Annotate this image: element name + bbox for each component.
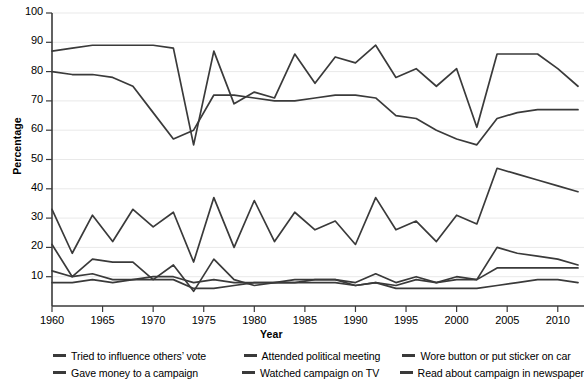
legend-entry[interactable]: Watched campaign on TV — [242, 367, 400, 379]
legend-entry[interactable]: Tried to influence others’ vote — [53, 350, 244, 362]
legend-entry[interactable]: Gave money to a campaign — [53, 367, 242, 379]
legend-row: Gave money to a campaignWatched campaign… — [0, 364, 584, 381]
x-tick-label: 2000 — [437, 314, 477, 326]
legend-entry[interactable]: Read about campaign in newspaper — [400, 367, 584, 379]
x-tick-label: 1980 — [234, 314, 274, 326]
y-axis-title: Percentage — [11, 106, 23, 186]
legend-line-swatch-icon — [400, 371, 413, 374]
y-tick-label: 60 — [13, 122, 43, 134]
chart-plot-area — [0, 0, 584, 345]
y-tick-label: 30 — [13, 210, 43, 222]
x-tick-label: 1995 — [386, 314, 426, 326]
y-tick-label: 80 — [13, 64, 43, 76]
y-tick-label: 70 — [13, 93, 43, 105]
line-chart: Percentage Year 102030405060708090100 19… — [0, 0, 584, 383]
legend-line-swatch-icon — [53, 354, 66, 357]
x-tick-label: 1970 — [133, 314, 173, 326]
legend-label: Attended political meeting — [262, 350, 381, 362]
legend-entry[interactable]: Wore button or put sticker on car — [402, 350, 584, 362]
y-tick-label: 100 — [13, 5, 43, 17]
legend-line-swatch-icon — [402, 354, 415, 357]
series-group — [52, 45, 578, 291]
x-tick-label: 1975 — [184, 314, 224, 326]
legend-label: Read about campaign in newspaper — [418, 367, 584, 379]
legend-label: Tried to influence others’ vote — [71, 350, 206, 362]
legend-line-swatch-icon — [53, 371, 66, 374]
series-line — [52, 280, 578, 289]
y-tick-label: 20 — [13, 239, 43, 251]
legend-label: Wore button or put sticker on car — [420, 350, 570, 362]
chart-legend: Tried to influence others’ voteAttended … — [0, 347, 584, 383]
legend-entry[interactable]: Attended political meeting — [244, 350, 403, 362]
x-tick-label: 1965 — [83, 314, 123, 326]
x-tick-label: 2010 — [538, 314, 578, 326]
gridlines — [52, 13, 584, 277]
y-tick-label: 40 — [13, 181, 43, 193]
legend-line-swatch-icon — [242, 371, 255, 374]
y-tick-label: 50 — [13, 152, 43, 164]
y-tick-label: 90 — [13, 34, 43, 46]
x-tick-label: 1985 — [285, 314, 325, 326]
legend-line-swatch-icon — [244, 354, 257, 357]
legend-row: Tried to influence others’ voteAttended … — [0, 347, 584, 364]
x-tick-label: 1960 — [32, 314, 72, 326]
legend-label: Watched campaign on TV — [260, 367, 379, 379]
x-axis-title: Year — [260, 328, 283, 340]
x-tick-label: 1990 — [335, 314, 375, 326]
y-tick-label: 10 — [13, 269, 43, 281]
legend-label: Gave money to a campaign — [71, 367, 198, 379]
x-tick-label: 2005 — [487, 314, 527, 326]
